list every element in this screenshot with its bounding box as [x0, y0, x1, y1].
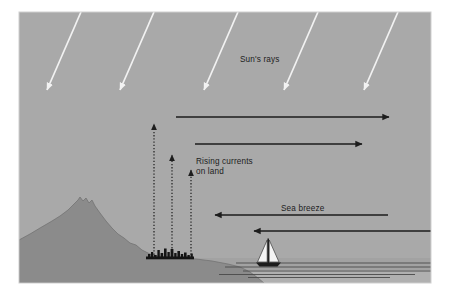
rising-currents-label-line1: Rising currents	[196, 157, 253, 166]
rising-currents-label-line2: on land	[196, 167, 224, 176]
figure-root: Sun's rays Rising currents on land Sea b…	[0, 0, 449, 301]
sea-breeze-diagram: Sun's rays Rising currents on land Sea b…	[0, 0, 449, 301]
sea-breeze-label: Sea breeze	[281, 204, 325, 213]
suns-rays-label: Sun's rays	[240, 55, 279, 64]
hull	[256, 263, 281, 267]
